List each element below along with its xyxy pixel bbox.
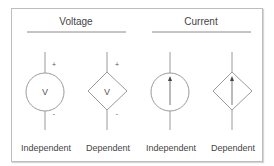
arrow-up-icon xyxy=(168,76,172,105)
dependent-voltage-source: V + - xyxy=(88,52,127,130)
sources-diagram: Voltage V + - V + - Current xyxy=(0,0,274,166)
arrow-up-icon xyxy=(230,76,234,105)
voltage-group: Voltage V + - V + - xyxy=(26,16,127,130)
minus-sign: - xyxy=(53,110,56,117)
independent-voltage-source: V + - xyxy=(26,52,64,130)
label-dependent-current: Dependent xyxy=(211,143,256,153)
plus-sign: + xyxy=(115,61,119,68)
independent-current-source xyxy=(151,52,189,130)
minus-sign: - xyxy=(116,110,119,117)
voltage-symbol: V xyxy=(104,87,110,97)
label-independent-current: Independent xyxy=(146,143,197,153)
dependent-current-source xyxy=(213,52,252,130)
label-independent-voltage: Independent xyxy=(21,143,72,153)
current-title: Current xyxy=(184,16,218,27)
label-dependent-voltage: Dependent xyxy=(86,143,131,153)
plus-sign: + xyxy=(52,61,56,68)
voltage-title: Voltage xyxy=(59,16,93,27)
current-group: Current xyxy=(151,16,252,130)
voltage-symbol: V xyxy=(42,87,48,97)
